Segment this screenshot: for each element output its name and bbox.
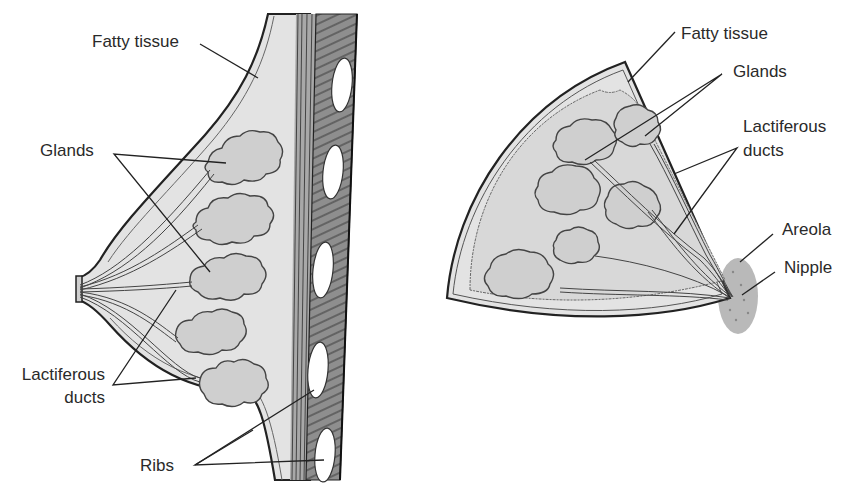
side-label-lactiferous-ducts-line2: ducts <box>2 388 105 408</box>
front-label-lactiferous-ducts-line1: Lactiferous <box>743 117 826 137</box>
diagram-canvas <box>0 0 847 496</box>
side-breast-tissue <box>78 14 310 480</box>
breast-anatomy-diagram: Fatty tissue Glands Lactiferous ducts Ri… <box>0 0 847 496</box>
front-label-nipple: Nipple <box>784 258 832 278</box>
front-view <box>447 32 775 334</box>
side-view <box>76 14 357 483</box>
side-label-fatty-tissue: Fatty tissue <box>92 32 179 52</box>
front-label-fatty-tissue: Fatty tissue <box>681 24 768 44</box>
front-label-glands: Glands <box>733 62 787 82</box>
side-label-glands: Glands <box>40 141 94 161</box>
side-label-lactiferous-ducts-line1: Lactiferous <box>2 365 105 385</box>
front-label-lactiferous-ducts-line2: ducts <box>743 141 784 161</box>
front-label-areola: Areola <box>782 220 831 240</box>
side-label-ribs: Ribs <box>140 456 174 476</box>
